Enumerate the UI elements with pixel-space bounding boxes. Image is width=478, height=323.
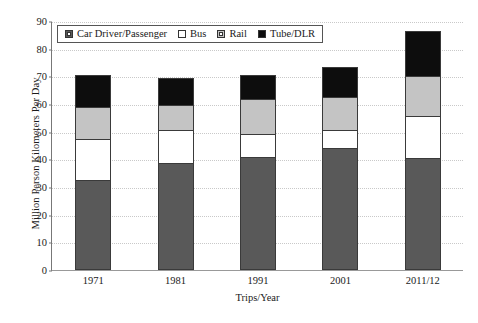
y-axis-tick-label: 60 xyxy=(37,100,48,111)
legend-label: Car Driver/Passenger xyxy=(77,28,167,39)
y-axis-tick-label: 30 xyxy=(37,183,48,194)
y-axis-tick-label: 50 xyxy=(37,127,48,138)
x-axis-tick-label: 2011/12 xyxy=(406,275,440,286)
dark-grey-swatch xyxy=(65,30,73,38)
bar-segment-car-driver-passenger xyxy=(75,180,111,270)
white-swatch xyxy=(178,30,186,38)
y-axis-tick-label: 20 xyxy=(37,210,48,221)
bar-1971 xyxy=(75,75,111,270)
bar-segment-rail xyxy=(322,97,358,130)
x-axis-tick-label: 1971 xyxy=(83,275,104,286)
bar-segment-tube-dlr xyxy=(75,75,111,107)
bar-1981 xyxy=(158,78,194,270)
bar-segment-rail xyxy=(75,107,111,139)
legend-label: Bus xyxy=(190,28,206,39)
y-axis-tick-label: 80 xyxy=(37,44,48,55)
y-axis-tick-label: 40 xyxy=(37,155,48,166)
x-axis-tick-label: 2001 xyxy=(330,275,351,286)
bar-segment-rail xyxy=(158,105,194,130)
bar-segment-bus xyxy=(240,134,276,156)
bar-1991 xyxy=(240,75,276,270)
bar-segment-tube-dlr xyxy=(322,67,358,97)
bar-segment-bus xyxy=(158,130,194,163)
bar-segment-rail xyxy=(405,76,441,116)
stacked-bar-chart: Million Person Kilometers Per Day 010203… xyxy=(0,0,478,323)
plot-area: 0102030405060708090 19711981199120012011… xyxy=(51,22,463,271)
y-axis-tick-label: 0 xyxy=(42,266,47,277)
legend-item: Car Driver/Passenger xyxy=(65,28,167,39)
bar-segment-tube-dlr xyxy=(240,75,276,99)
bar-segment-tube-dlr xyxy=(405,31,441,77)
x-axis-title: Trips/Year xyxy=(52,292,463,303)
x-axis-tick-label: 1991 xyxy=(248,275,269,286)
bar-segment-car-driver-passenger xyxy=(158,163,194,270)
y-axis-tick-label: 90 xyxy=(37,17,48,28)
bar-2011-12 xyxy=(405,31,441,270)
legend: Car Driver/PassengerBusRailTube/DLR xyxy=(57,25,323,43)
legend-item: Tube/DLR xyxy=(258,28,315,39)
bar-segment-car-driver-passenger xyxy=(322,148,358,270)
bar-segment-bus xyxy=(75,139,111,181)
bar-2001 xyxy=(322,67,358,270)
bar-segment-car-driver-passenger xyxy=(240,157,276,270)
bar-segment-bus xyxy=(405,116,441,158)
bar-segment-rail xyxy=(240,99,276,135)
legend-label: Tube/DLR xyxy=(270,28,315,39)
y-axis-tickmark xyxy=(49,271,52,272)
bars-layer xyxy=(52,22,463,270)
light-grey-swatch xyxy=(217,30,225,38)
x-axis-tick-label: 1981 xyxy=(165,275,186,286)
legend-label: Rail xyxy=(229,28,247,39)
legend-item: Bus xyxy=(178,28,206,39)
bar-segment-bus xyxy=(322,130,358,148)
black-swatch xyxy=(258,30,266,38)
y-axis-tick-label: 70 xyxy=(37,72,48,83)
bar-segment-tube-dlr xyxy=(158,78,194,106)
bar-segment-car-driver-passenger xyxy=(405,158,441,270)
y-axis-tick-label: 10 xyxy=(37,238,48,249)
legend-item: Rail xyxy=(217,28,247,39)
